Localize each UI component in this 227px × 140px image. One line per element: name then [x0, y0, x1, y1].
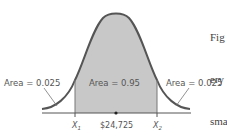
figure-caption-fragment: Fig ery sma [210, 2, 227, 140]
x1-label: X1 [71, 121, 81, 131]
center-shaded-area [75, 14, 157, 114]
caption-line: sma [210, 114, 227, 128]
center-area-label: Area = 0.95 [89, 78, 140, 88]
caption-line: ery [210, 72, 227, 86]
normal-distribution-diagram: Area = 0.025 Area = 0.95 Area = 0.025 X1… [0, 0, 227, 140]
caption-line: Fig [210, 30, 227, 44]
x2-label: X2 [152, 121, 162, 131]
mean-label: $24,725 [100, 121, 133, 130]
right-tail-pointer [176, 88, 189, 106]
left-tail-pointer [44, 88, 57, 106]
left-tail-area-label: Area = 0.025 [4, 78, 60, 88]
mean-point [114, 111, 117, 114]
